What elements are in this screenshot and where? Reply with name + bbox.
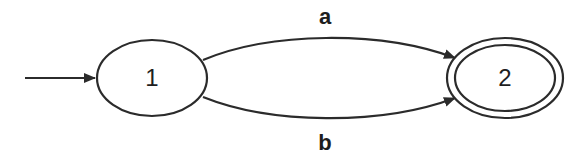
transition-label-b: b <box>318 130 331 155</box>
state-2-accepting: 2 <box>447 38 563 118</box>
automaton-diagram: a b 1 2 <box>0 0 586 159</box>
transition-a: a <box>203 4 455 60</box>
state-label-1: 1 <box>145 64 158 91</box>
transition-label-a: a <box>319 4 332 29</box>
transition-b: b <box>203 97 455 155</box>
state-1: 1 <box>97 40 207 116</box>
state-label-2: 2 <box>498 64 511 91</box>
